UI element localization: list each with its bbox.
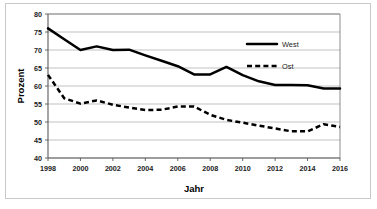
y-tick-label: 55 [34, 100, 42, 109]
x-tick-label: 1998 [40, 164, 56, 173]
x-tick-label: 2006 [170, 164, 186, 173]
legend-label-west: West [282, 40, 299, 49]
x-tick-label: 2012 [267, 164, 283, 173]
y-tick-label: 75 [34, 28, 42, 37]
y-tick-label: 70 [34, 46, 42, 55]
x-tick-label: 2002 [105, 164, 121, 173]
legend-label-ost: Ost [282, 62, 294, 71]
y-axis-title: Prozent [15, 68, 26, 104]
x-tick-label: 2000 [72, 164, 88, 173]
x-tick-label: 2004 [137, 164, 153, 173]
y-tick-label: 45 [34, 136, 42, 145]
x-tick-label: 2014 [300, 164, 316, 173]
x-tick-label: 2008 [202, 164, 218, 173]
x-tick-label: 2010 [235, 164, 251, 173]
x-axis-title: Jahr [184, 183, 204, 194]
line-chart: 404550556065707580 199820002002200420062… [0, 0, 377, 209]
y-tick-label: 65 [34, 64, 42, 73]
y-tick-label: 50 [34, 118, 42, 127]
chart-figure: 404550556065707580 199820002002200420062… [0, 0, 377, 209]
y-tick-label: 40 [34, 154, 42, 163]
x-tick-label: 2016 [332, 164, 348, 173]
x-tick-labels: 1998200020022004200620082010201220142016 [40, 164, 348, 173]
y-tick-label: 80 [34, 10, 42, 19]
y-tick-label: 60 [34, 82, 42, 91]
y-tick-labels: 404550556065707580 [34, 10, 42, 163]
